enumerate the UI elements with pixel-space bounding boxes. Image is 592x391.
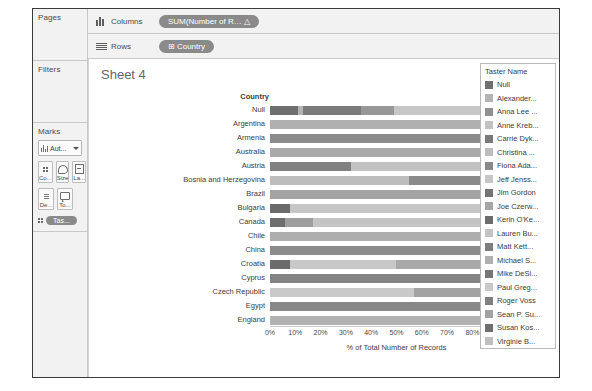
y-axis-tick-label: Armenia — [89, 131, 269, 145]
legend-label: Lauren Bu... — [497, 229, 538, 238]
x-axis-tick-label: 50% — [389, 329, 403, 336]
legend-item[interactable]: Paul Greg... — [485, 281, 551, 295]
legend-item[interactable]: Virginie B... — [485, 335, 551, 349]
bar-segment[interactable] — [270, 204, 290, 213]
bar-segment[interactable] — [270, 176, 409, 185]
y-axis-tick-label: Brazil — [89, 187, 269, 201]
y-axis-tick-label: Egypt — [89, 299, 269, 313]
x-axis-tick-label: 70% — [440, 329, 454, 336]
legend-swatch — [485, 81, 493, 89]
bar-segment[interactable] — [270, 162, 351, 171]
legend-item[interactable]: Matt Kett... — [485, 240, 551, 254]
color-legend: Taster Name NullAlexander...Anna Lee ...… — [480, 63, 556, 349]
legend-item[interactable]: Kerin O'Ke... — [485, 213, 551, 227]
x-axis-tick-label: 80% — [465, 329, 479, 336]
legend-item[interactable]: Null — [485, 78, 551, 92]
marks-size-label: Size — [57, 175, 69, 181]
bar-segment[interactable] — [290, 260, 396, 269]
color-icon — [38, 218, 43, 223]
legend-item[interactable]: Joe Czerw... — [485, 200, 551, 214]
marks-color-button[interactable]: Co... — [38, 161, 53, 183]
legend-item[interactable]: Susan Kos... — [485, 321, 551, 335]
marks-label-button[interactable]: La... — [72, 161, 86, 183]
marks-type-dropdown[interactable]: Aut... — [38, 140, 82, 156]
legend-label: Roger Voss — [497, 296, 536, 305]
bar-segment[interactable] — [285, 218, 313, 227]
legend-label: Jim Gordon — [497, 188, 536, 197]
chevron-down-icon[interactable] — [73, 147, 79, 150]
marks-tooltip-label: To... — [59, 202, 70, 208]
legend-label: Mike DeSi... — [497, 269, 537, 278]
rows-pill-country[interactable]: ⊞ Country — [159, 40, 214, 53]
bar-segment[interactable] — [270, 218, 285, 227]
bar-segment[interactable] — [290, 204, 482, 213]
legend-swatch — [485, 243, 493, 251]
bar-segment[interactable] — [270, 232, 513, 241]
legend-label: Matt Kett... — [497, 242, 533, 251]
legend-item[interactable]: Anna Lee ... — [485, 105, 551, 119]
y-axis-tick-label: Croatia — [89, 257, 269, 271]
bar-segment[interactable] — [361, 106, 394, 115]
x-axis-tick-label: 40% — [364, 329, 378, 336]
bar-segment[interactable] — [270, 106, 298, 115]
legend-label: Jeff Jenss... — [497, 175, 537, 184]
legend-swatch — [485, 324, 493, 332]
rows-shelf[interactable]: Rows ⊞ Country — [88, 34, 559, 59]
legend-swatch — [485, 310, 493, 318]
bar-segment[interactable] — [313, 218, 495, 227]
legend-swatch — [485, 283, 493, 291]
marks-detail-button[interactable]: De... — [38, 188, 54, 210]
label-icon — [75, 164, 84, 174]
bar-segment[interactable] — [270, 260, 290, 269]
legend-item[interactable]: Fiona Ada... — [485, 159, 551, 173]
legend-item[interactable]: Anne Kreb... — [485, 119, 551, 133]
bar-segment[interactable] — [270, 148, 488, 157]
legend-swatch — [485, 229, 493, 237]
columns-pill-sum-number-of-records[interactable]: SUM(Number of R… △ — [159, 15, 259, 28]
legend-label: Null — [497, 80, 510, 89]
legend-item[interactable]: Jeff Jenss... — [485, 173, 551, 187]
columns-icon — [96, 17, 107, 26]
rows-label: Rows — [111, 42, 159, 51]
marks-tooltip-button[interactable]: To... — [57, 188, 73, 210]
legend-title: Taster Name — [485, 67, 551, 76]
legend-item[interactable]: Alexander... — [485, 92, 551, 106]
legend-swatch — [485, 148, 493, 156]
y-axis-tick-label: Bosnia and Herzegovina — [89, 173, 269, 187]
legend-item[interactable]: Mike DeSi... — [485, 267, 551, 281]
legend-label: Virginie B... — [497, 337, 535, 346]
marks-taster-pill[interactable]: Tas... — [46, 216, 77, 225]
y-axis-tick-label: Australia — [89, 145, 269, 159]
bar-chart-icon — [41, 145, 48, 152]
x-axis-tick-label: 0% — [265, 329, 275, 336]
y-axis-tick-label: Chile — [89, 229, 269, 243]
legend-swatch — [485, 202, 493, 210]
legend-item[interactable]: Michael S... — [485, 254, 551, 268]
legend-item[interactable]: Sean P. Su... — [485, 308, 551, 322]
marks-size-button[interactable]: Size — [56, 161, 70, 183]
legend-item[interactable]: Christina ... — [485, 146, 551, 160]
legend-swatch — [485, 256, 493, 264]
legend-swatch — [485, 108, 493, 116]
marks-color-label: Co... — [39, 175, 52, 181]
x-axis-tick-label: 10% — [288, 329, 302, 336]
filters-shelf[interactable]: Filters — [33, 61, 87, 123]
legend-swatch — [485, 270, 493, 278]
marks-label-label: La... — [73, 175, 85, 181]
pages-shelf[interactable]: Pages — [33, 9, 87, 61]
legend-item[interactable]: Lauren Bu... — [485, 227, 551, 241]
legend-item[interactable]: Jim Gordon — [485, 186, 551, 200]
legend-label: Anne Kreb... — [497, 121, 539, 130]
legend-label: Carrie Dyk... — [497, 134, 539, 143]
columns-shelf[interactable]: Columns SUM(Number of R… △ — [88, 9, 559, 34]
x-axis-tick-label: 30% — [339, 329, 353, 336]
x-axis-tick-label: 60% — [415, 329, 429, 336]
legend-item[interactable]: Carrie Dyk... — [485, 132, 551, 146]
y-axis-tick-label: Argentina — [89, 117, 269, 131]
left-sidebar: Pages Filters Marks Aut... Co... Size — [33, 9, 88, 377]
legend-item[interactable]: Roger Voss — [485, 294, 551, 308]
bar-segment[interactable] — [303, 106, 361, 115]
legend-swatch — [485, 189, 493, 197]
legend-label: Fiona Ada... — [497, 161, 537, 170]
bar-segment[interactable] — [270, 288, 414, 297]
